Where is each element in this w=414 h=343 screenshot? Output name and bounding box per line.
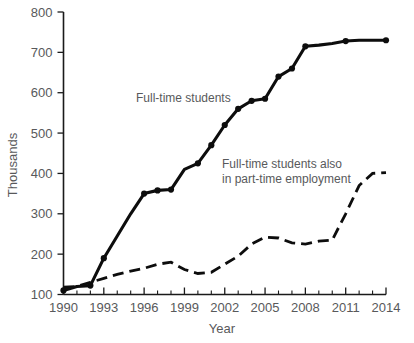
data-point-2014 [383,37,389,43]
y-tick-label-800: 800 [31,5,53,20]
x-tick-label-2008: 2008 [291,300,320,315]
data-point-2001 [208,142,214,148]
data-point-1993 [101,255,107,261]
x-tick-label-1990: 1990 [49,300,78,315]
data-point-1996 [141,191,147,197]
x-tick-label-1993: 1993 [89,300,118,315]
chart-container: 100200300400500600700800 199019931996199… [0,0,414,343]
data-point-1997 [154,187,160,193]
data-point-2002 [222,122,228,128]
data-point-1992 [87,283,93,289]
y-tick-label-600: 600 [31,85,53,100]
data-point-2011 [343,38,349,44]
annotation-part-time-employment-line1: Full-time students also [222,157,342,171]
y-axis-title: Thousands [5,132,20,197]
data-point-2007 [289,65,295,71]
y-tick-label-300: 300 [31,206,53,221]
data-point-1998 [168,186,174,192]
x-tick-label-1996: 1996 [130,300,159,315]
x-tick-label-2005: 2005 [251,300,280,315]
x-axis-tick-labels: 199019931996199920022005200820112014 [49,300,400,315]
data-point-2008 [302,43,308,49]
line-chart: 100200300400500600700800 199019931996199… [0,0,414,343]
y-tick-label-200: 200 [31,247,53,262]
data-point-2000 [195,160,201,166]
annotation-full-time-students: Full-time students [136,91,231,105]
x-tick-label-2002: 2002 [210,300,239,315]
data-point-2004 [249,98,255,104]
x-tick-label-1999: 1999 [170,300,199,315]
x-tick-label-2011: 2011 [332,300,360,315]
data-point-1990 [60,287,66,293]
data-point-2006 [275,73,281,79]
y-tick-label-500: 500 [31,126,53,141]
data-point-2005 [262,96,268,102]
data-point-2003 [235,106,241,112]
y-tick-label-700: 700 [31,45,53,60]
annotation-part-time-employment-line2: in part-time employment [222,172,351,186]
x-axis-title: Year [209,321,236,336]
y-tick-label-400: 400 [31,166,53,181]
x-tick-label-2014: 2014 [372,300,401,315]
